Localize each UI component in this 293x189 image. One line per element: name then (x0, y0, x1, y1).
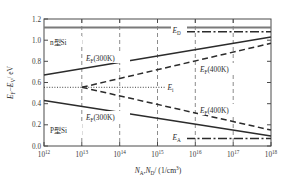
annotation-ef300k-ptype: EF(300K) (85, 113, 115, 123)
y-tick-label-5: 1.0 (32, 37, 41, 45)
semiconductor-fermi-level-chart: 0.0 0.2 0.4 0.6 0.8 1.0 1.2 1012 1013 10… (0, 0, 293, 189)
y-tick-label-3: 0.6 (32, 79, 41, 87)
figure-container: 0.0 0.2 0.4 0.6 0.8 1.0 1.2 1012 1013 10… (0, 0, 293, 189)
annotation-ef400k-ptype: EF(400K) (199, 106, 229, 116)
y-tick-label-4: 0.8 (32, 58, 41, 66)
y-axis-title: EF−EV/ eV (6, 65, 16, 100)
y-tick-label-0: 0.0 (32, 143, 41, 151)
y-tick-label-2: 0.4 (32, 100, 41, 108)
annotation-ef300k-ntype: EF(300K) (85, 54, 115, 64)
y-tick-label-6: 1.2 (32, 16, 41, 24)
annotation-ef400k-ntype: EF(400K) (199, 65, 229, 75)
n-type-region-label: n型Si (50, 38, 67, 47)
p-type-region-label: P型Si (50, 126, 67, 135)
y-tick-label-1: 0.2 (32, 121, 41, 129)
